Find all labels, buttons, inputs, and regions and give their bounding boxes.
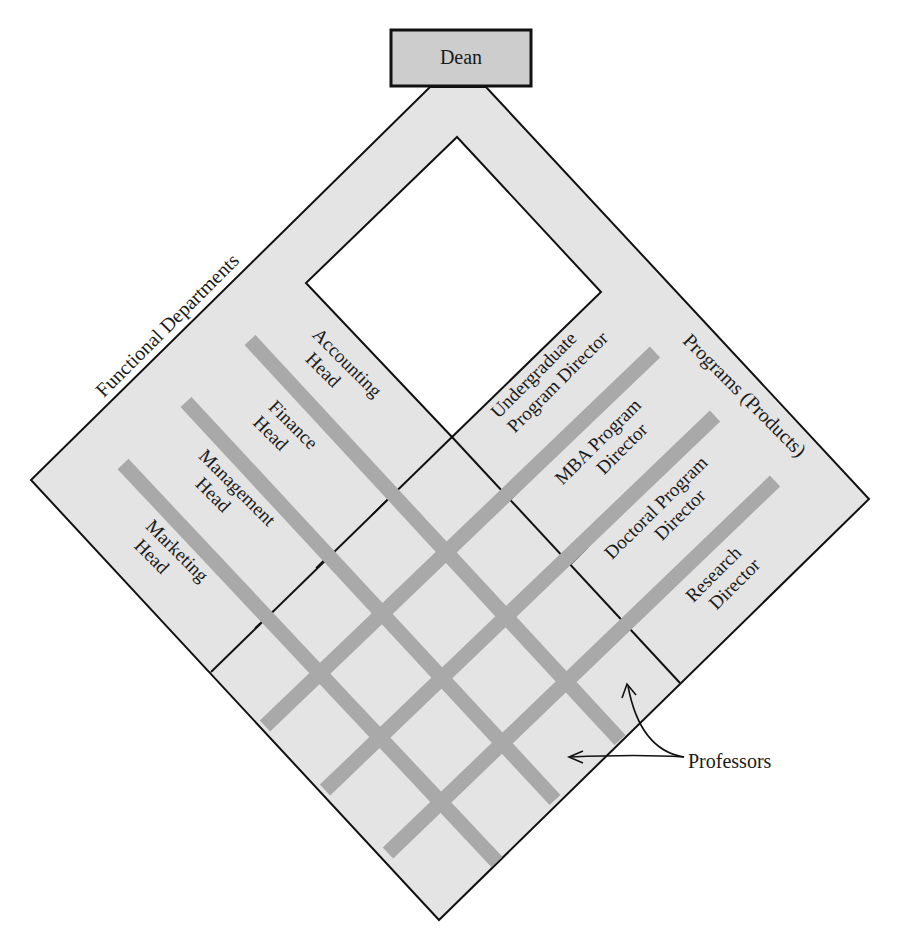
professors-label: Professors — [688, 750, 772, 772]
matrix-organization-diagram: Dean Functional Departments Accounting H… — [0, 0, 900, 949]
callout-arrow-line — [570, 756, 684, 758]
dean-label: Dean — [440, 46, 482, 68]
